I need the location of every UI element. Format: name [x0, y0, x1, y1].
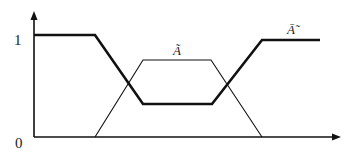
- label-a-tilde-complement: Ā̃: [286, 22, 301, 37]
- y-axis-arrow-icon: [31, 11, 38, 20]
- x-axis-arrow-icon: [332, 134, 341, 141]
- y-tick-label-one: 1: [14, 32, 22, 48]
- y-tick-label-zero: 0: [15, 135, 23, 151]
- diagram-canvas: 1 0 Ã Ā̃: [0, 0, 352, 155]
- label-a-tilde: Ã: [172, 43, 181, 58]
